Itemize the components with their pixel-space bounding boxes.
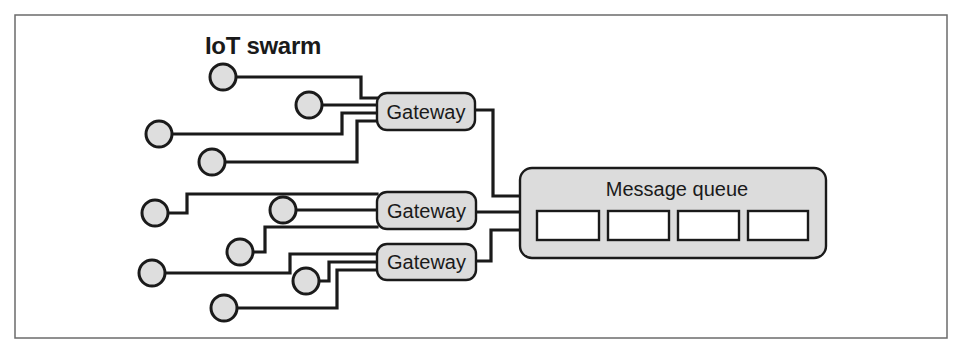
device-1-node (210, 64, 236, 90)
device-10-node (211, 295, 237, 321)
queue-slot-4 (748, 211, 808, 240)
gateway-2: Gateway (377, 192, 476, 229)
device-7-node (227, 239, 253, 265)
device-2-node (296, 92, 322, 118)
device-8-node (139, 260, 165, 286)
message-queue: Message queue (520, 168, 826, 258)
device-4-node (199, 149, 225, 175)
gateway-1: Gateway (377, 93, 475, 130)
queue-slot-3 (678, 211, 739, 240)
gateway-3: Gateway (377, 244, 476, 280)
queue-slot-1 (537, 211, 599, 240)
diagram-title: IoT swarm (205, 32, 321, 59)
gateway-3-label: Gateway (387, 251, 466, 273)
gateway-2-label: Gateway (387, 200, 466, 222)
iot-swarm-diagram: IoT swarm GatewayGatewayGateway Message … (0, 0, 961, 352)
message-queue-label: Message queue (606, 178, 748, 200)
gateway-1-label: Gateway (387, 101, 466, 123)
device-3-node (146, 121, 172, 147)
device-5-node (142, 200, 168, 226)
diagram-canvas: IoT swarm GatewayGatewayGateway Message … (0, 0, 961, 352)
device-6-node (270, 197, 296, 223)
device-9-node (293, 268, 319, 294)
queue-slot-2 (608, 211, 669, 240)
